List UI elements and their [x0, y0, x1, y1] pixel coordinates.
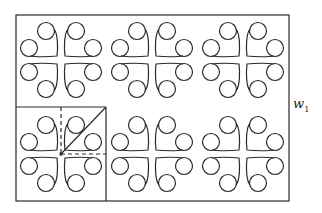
- label-base: w: [293, 96, 304, 111]
- motif: [112, 117, 193, 192]
- pattern-label: w1: [293, 96, 309, 114]
- wallpaper-pattern-diagram: [0, 0, 322, 213]
- motif: [203, 117, 284, 192]
- motif: [112, 23, 193, 98]
- motif: [203, 23, 284, 98]
- motif: [21, 23, 102, 98]
- fundamental-cell: [16, 107, 106, 201]
- label-subscript: 1: [304, 105, 309, 114]
